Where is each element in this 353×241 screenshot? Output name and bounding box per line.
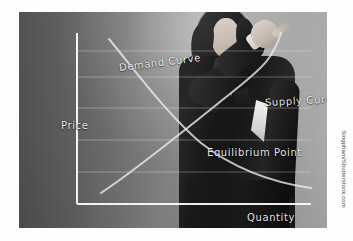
price-axis-label: Price bbox=[61, 120, 88, 131]
photo-credit: Singpham/Shutterstock.com bbox=[337, 118, 351, 230]
equilibrium-point-label: Equilibrium Point bbox=[207, 147, 302, 158]
page-canvas: Demand Curve Supply Curve Equilibrium Po… bbox=[0, 0, 353, 241]
quantity-axis-label: Quantity bbox=[247, 212, 295, 223]
supply-demand-chart: Demand Curve Supply Curve Equilibrium Po… bbox=[19, 12, 327, 228]
photo-credit-text: Singpham/Shutterstock.com bbox=[341, 130, 347, 208]
photograph: Demand Curve Supply Curve Equilibrium Po… bbox=[19, 12, 327, 228]
